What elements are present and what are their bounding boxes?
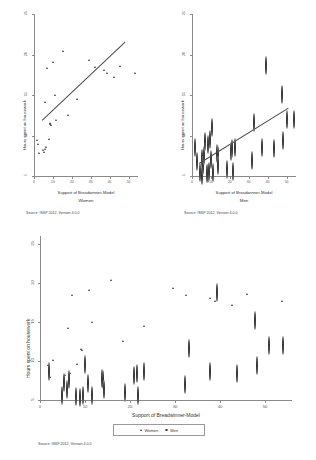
y-axis-tick-label: 10: [182, 131, 186, 139]
triangle-marker-icon: [209, 280, 211, 299]
data-point: [119, 48, 122, 51]
triangle-marker-icon: [113, 59, 115, 78]
x-axis-tick: [110, 176, 111, 179]
y-axis-tick-label: 15: [24, 90, 28, 98]
circle-marker-icon: [281, 85, 283, 104]
panel-women-source-note: Source: ISSP 2012, Version 4.0.0: [26, 211, 79, 215]
x-axis-line: [34, 176, 138, 177]
data-point: [67, 310, 70, 313]
data-point: [293, 111, 296, 114]
triangle-marker-icon: [231, 287, 233, 306]
data-point: [68, 371, 71, 374]
data-point: [185, 277, 188, 280]
circle-marker-icon: [188, 339, 190, 358]
legend-item-men: Men: [165, 428, 178, 433]
data-point: [87, 375, 90, 378]
triangle-marker-icon: [140, 429, 142, 431]
panel-women-y-axis-title: Hours spent on housework: [22, 100, 27, 150]
y-axis-tick-label: 15: [182, 90, 186, 98]
circle-marker-icon: [273, 139, 275, 158]
circle-marker-icon: [226, 160, 228, 179]
y-axis-line: [34, 14, 35, 176]
y-axis-tick: [38, 283, 41, 284]
triangle-marker-icon: [143, 308, 145, 327]
x-axis-tick: [85, 400, 86, 403]
y-axis-line: [40, 236, 41, 400]
data-point: [48, 363, 51, 366]
circle-marker-icon: [75, 387, 77, 406]
triangle-marker-icon: [46, 50, 48, 69]
y-axis-tick: [38, 361, 41, 362]
data-point: [282, 132, 285, 135]
triangle-marker-icon: [67, 310, 69, 329]
data-point: [44, 84, 47, 87]
data-point: [234, 139, 237, 142]
x-axis-tick: [91, 176, 92, 179]
triangle-marker-icon: [94, 49, 96, 68]
x-axis-tick-label: 40: [214, 404, 226, 409]
circle-marker-icon: [143, 362, 145, 381]
data-point: [216, 284, 219, 287]
x-axis-tick: [287, 176, 288, 179]
data-point: [122, 323, 125, 326]
x-axis-line: [40, 400, 292, 401]
data-point: [52, 342, 55, 345]
triangle-marker-icon: [50, 107, 52, 126]
triangle-marker-icon: [76, 81, 78, 100]
data-point: [136, 365, 139, 368]
data-point: [286, 111, 289, 114]
data-point: [253, 114, 256, 117]
data-point: [91, 387, 94, 390]
x-axis-tick-label: 30: [169, 404, 181, 409]
circle-marker-icon: [165, 429, 168, 432]
data-point: [265, 57, 268, 60]
circle-marker-icon: [236, 364, 238, 383]
data-point: [143, 308, 146, 311]
x-axis-tick: [265, 400, 266, 403]
x-axis-tick-label: 30: [85, 180, 97, 184]
triangle-marker-icon: [62, 33, 64, 52]
data-point: [251, 152, 254, 155]
triangle-marker-icon: [54, 77, 56, 96]
circle-marker-icon: [133, 366, 135, 385]
x-axis-tick: [249, 176, 250, 179]
data-point: [281, 86, 284, 89]
triangle-marker-icon: [81, 332, 83, 351]
data-point: [67, 97, 70, 100]
panel-women-scatter: Hours spent on housework Support of Brea…: [0, 0, 158, 220]
data-point: [64, 357, 67, 360]
circle-marker-icon: [209, 362, 211, 381]
data-point: [110, 262, 113, 265]
data-point: [232, 163, 235, 166]
circle-marker-icon: [91, 386, 93, 405]
x-axis-tick-label: 10: [47, 180, 59, 184]
data-point: [54, 77, 57, 80]
data-point: [268, 337, 271, 340]
y-axis-tick-label: 10: [24, 131, 28, 139]
legend-item-women: Women: [140, 428, 158, 433]
panel-men-subtitle: Men: [192, 198, 296, 203]
y-axis-tick-label: 10: [30, 356, 35, 364]
data-point: [137, 387, 140, 390]
x-axis-tick-label: 20: [66, 180, 78, 184]
chart-legend: Women Men: [113, 424, 205, 436]
panel-men-source-note: Source: ISSP 2012, Version 4.0.0: [184, 211, 237, 215]
y-axis-tick-label: 5: [24, 171, 28, 179]
triangle-marker-icon: [67, 97, 69, 116]
data-point: [55, 102, 58, 105]
data-point: [254, 312, 257, 315]
x-axis-tick-label: 10: [79, 404, 91, 409]
y-axis-tick-label: 20: [24, 50, 28, 58]
data-point: [188, 340, 191, 343]
x-axis-tick-label: 30: [243, 180, 255, 184]
y-axis-tick: [190, 136, 193, 137]
panel-men-y-axis-title: Hours spent on housework: [180, 100, 185, 150]
x-axis-tick-label: 40: [262, 180, 274, 184]
triangle-marker-icon: [91, 304, 93, 323]
data-point: [52, 44, 55, 47]
data-point: [226, 161, 229, 164]
circle-marker-icon: [124, 383, 126, 402]
data-point: [94, 49, 97, 52]
panel-men-scatter: Hours spent on housework Support of Brea…: [158, 0, 316, 220]
data-point: [106, 55, 109, 58]
